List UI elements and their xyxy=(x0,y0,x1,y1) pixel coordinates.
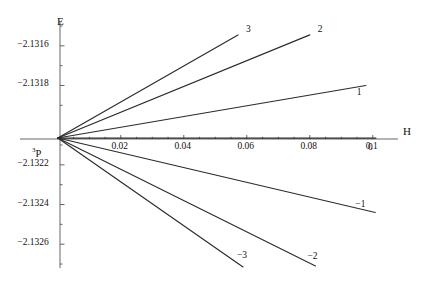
curve-label-m-1: −1 xyxy=(355,200,365,210)
level-line-m-1 xyxy=(58,138,376,212)
level-line-m-2 xyxy=(58,138,316,266)
tick-marks-group xyxy=(60,26,373,264)
x-tick-label: 0.08 xyxy=(300,142,317,152)
y-tick-label: −2.1322 xyxy=(17,159,48,169)
y-tick-label: −2.1318 xyxy=(17,79,48,89)
y-tick-label: −2.1324 xyxy=(17,199,48,209)
y-axis-title: E xyxy=(57,16,64,27)
x-tick-label: 0.02 xyxy=(111,142,128,152)
x-tick-label: 0.06 xyxy=(237,142,254,152)
curve-label-m-2: −2 xyxy=(307,252,317,262)
curve-label-m1: 1 xyxy=(357,88,362,98)
y-tick-label: −2.1326 xyxy=(17,238,48,248)
curve-label-m-3: −3 xyxy=(237,251,247,261)
curve-label-m3: 3 xyxy=(246,25,251,35)
y-tick-label: −2.1316 xyxy=(17,40,48,50)
origin-term-base: P xyxy=(36,148,42,159)
plot-canvas xyxy=(0,0,426,287)
x-tick-label: 0.04 xyxy=(174,142,191,152)
level-lines-group xyxy=(58,35,376,267)
x-axis-title: H xyxy=(403,126,411,137)
zeeman-splitting-chart: E H 3P 0.020.040.060.080.1−2.1316−2.1318… xyxy=(0,0,426,287)
level-line-m-3 xyxy=(58,138,243,267)
curve-label-m0: 0 xyxy=(368,143,373,153)
axes-group xyxy=(20,22,398,268)
level-line-m2 xyxy=(58,35,310,138)
curve-label-m2: 2 xyxy=(318,25,323,35)
